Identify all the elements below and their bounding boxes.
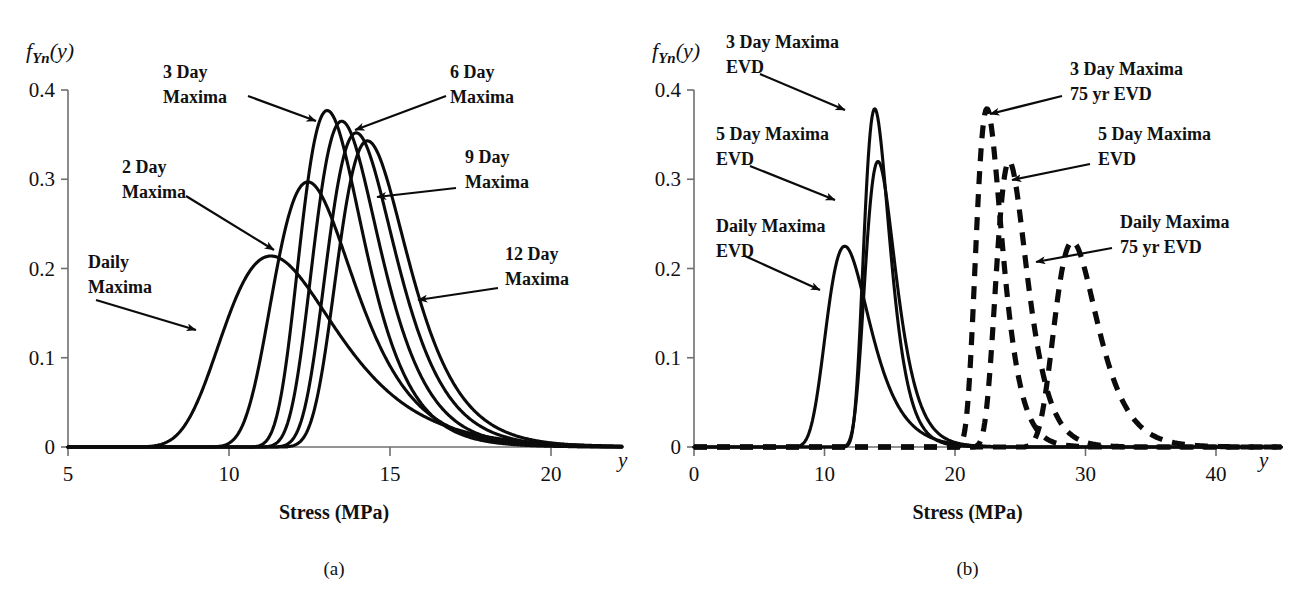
annotation-line: 75 yr EVD (1120, 237, 1202, 257)
annotation-line: 75 yr EVD (1070, 84, 1152, 104)
annotation-daily-maxima-75yr-evd: Daily Maxima75 yr EVD (1120, 212, 1230, 257)
panel-caption: (a) (323, 558, 344, 580)
annotation-6-day-maxima: 6 DayMaxima (450, 62, 514, 107)
annotation-line: EVD (1098, 149, 1136, 169)
annotation-5-day-maxima-evd-right: 5 Day MaximaEVD (1098, 124, 1211, 169)
annotation-line: 3 Day Maxima (726, 32, 839, 52)
annotation-line: 5 Day Maxima (716, 124, 829, 144)
panel-a: 00.10.20.30.45101520fYn(y)yStress (MPa)D… (26, 38, 628, 580)
annotation-leader-arrow (248, 96, 316, 121)
two-panel-evd-figure: 00.10.20.30.45101520fYn(y)yStress (MPa)D… (0, 0, 1302, 600)
annotation-12-day-maxima: 12 DayMaxima (505, 244, 569, 289)
annotation-line: 5 Day Maxima (1098, 124, 1211, 144)
y-tick-label: 0 (45, 435, 56, 459)
y-tick-label: 0.3 (29, 167, 55, 191)
annotation-leader-arrow (760, 74, 845, 110)
annotation-leader-arrow (418, 288, 498, 300)
annotation-line: Maxima (505, 269, 569, 289)
annotation-leader-arrow (750, 166, 835, 200)
annotation-line: Maxima (450, 87, 514, 107)
y-tick-label: 0.2 (655, 257, 681, 281)
x-axis-title: Stress (MPa) (912, 501, 1022, 524)
annotation-leader-arrow (355, 96, 446, 130)
annotation-line: Daily Maxima (1120, 212, 1230, 232)
y-tick-label: 0 (671, 435, 682, 459)
x-axis-variable: y (616, 448, 628, 472)
annotation-line: 6 Day (450, 62, 495, 82)
distribution-curve (694, 161, 1281, 447)
annotation-line: Maxima (465, 172, 529, 192)
annotation-line: 2 Day (122, 157, 167, 177)
annotation-line: EVD (726, 57, 764, 77)
y-tick-label: 0.4 (29, 78, 56, 102)
annotation-line: EVD (716, 149, 754, 169)
x-tick-label: 20 (945, 462, 966, 486)
y-axis-title: fYn(y) (26, 38, 74, 66)
x-tick-label: 15 (380, 462, 401, 486)
annotation-leader-arrow (990, 96, 1062, 114)
annotation-line: Maxima (88, 277, 152, 297)
annotation-line: 3 Day (163, 62, 208, 82)
x-tick-label: 30 (1075, 462, 1096, 486)
annotation-line: Daily (88, 252, 129, 272)
annotation-3-day-maxima-75yr-evd: 3 Day Maxima75 yr EVD (1070, 59, 1183, 104)
x-tick-label: 20 (541, 462, 562, 486)
annotation-leader-arrow (1012, 164, 1090, 180)
annotation-leader-arrow (96, 300, 196, 330)
x-tick-label: 10 (814, 462, 835, 486)
annotation-line: Daily Maxima (716, 216, 826, 236)
annotation-leader-arrow (1036, 248, 1112, 262)
annotation-5-day-maxima-evd: 5 Day MaximaEVD (716, 124, 829, 169)
y-tick-label: 0.4 (655, 78, 682, 102)
x-axis-variable: y (1257, 448, 1269, 472)
annotation-leader-arrow (186, 196, 274, 250)
x-tick-label: 0 (689, 462, 700, 486)
annotation-3-day-maxima-evd: 3 Day MaximaEVD (726, 32, 839, 77)
annotation-2-day-maxima: 2 DayMaxima (122, 157, 186, 202)
annotation-line: 3 Day Maxima (1070, 59, 1183, 79)
annotation-3-day-maxima: 3 DayMaxima (163, 62, 227, 107)
y-tick-label: 0.3 (655, 167, 681, 191)
annotation-leader-arrow (745, 256, 820, 290)
annotation-line: Maxima (163, 87, 227, 107)
y-tick-label: 0.1 (655, 346, 681, 370)
annotation-line: 12 Day (505, 244, 559, 264)
annotation-daily-maxima: DailyMaxima (88, 252, 152, 297)
annotation-line: Maxima (122, 182, 186, 202)
y-tick-label: 0.1 (29, 346, 55, 370)
panel-b: 00.10.20.30.4010203040fYn(y)yStress (MPa… (652, 32, 1281, 580)
y-axis-title: fYn(y) (652, 38, 700, 66)
x-tick-label: 40 (1206, 462, 1227, 486)
annotation-daily-maxima-evd: Daily MaximaEVD (716, 216, 826, 261)
figure-root: 00.10.20.30.45101520fYn(y)yStress (MPa)D… (0, 0, 1302, 600)
annotation-line: 9 Day (465, 147, 510, 167)
annotation-9-day-maxima: 9 DayMaxima (465, 147, 529, 192)
panel-caption: (b) (956, 558, 978, 580)
x-axis-title: Stress (MPa) (279, 501, 389, 524)
x-tick-label: 10 (219, 462, 240, 486)
x-tick-label: 5 (63, 462, 74, 486)
distribution-curve (694, 246, 1281, 447)
y-tick-label: 0.2 (29, 257, 55, 281)
